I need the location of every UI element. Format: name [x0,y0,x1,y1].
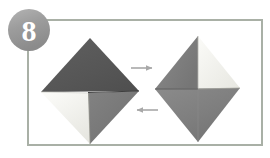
step-badge: 8 [8,9,50,51]
diagram-canvas: 8 [0,0,270,158]
origami-step-diagram: 8 [0,0,270,158]
step-badge-label: 8 [22,14,37,47]
